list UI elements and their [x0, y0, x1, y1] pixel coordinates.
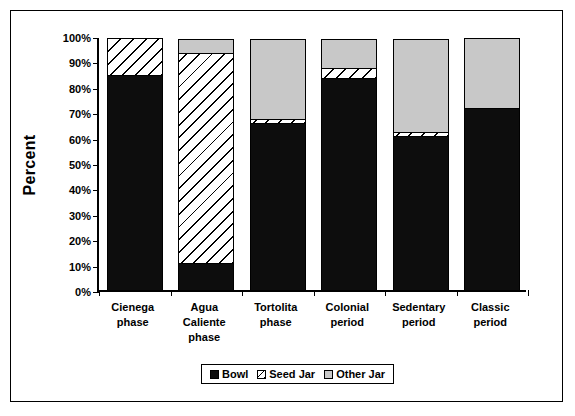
y-axis-tick-label: 20%	[47, 235, 91, 247]
legend-item-seed-jar[interactable]: Seed Jar	[257, 368, 315, 380]
bar-6[interactable]	[464, 38, 520, 290]
y-axis-tick-label: 50%	[47, 159, 91, 171]
y-axis-tick-label: 70%	[47, 108, 91, 120]
bar-segment-bowl[interactable]	[178, 263, 234, 291]
x-axis-tick	[242, 290, 243, 296]
x-axis-label-6: Classicperiod	[443, 300, 537, 330]
y-axis-tick-label: 60%	[47, 134, 91, 146]
legend-label: Other Jar	[336, 368, 385, 380]
legend-swatch-seed-icon	[257, 370, 266, 379]
y-axis-tick	[93, 241, 99, 242]
legend-item-bowl[interactable]: Bowl	[210, 368, 248, 380]
y-axis-title: Percent	[18, 90, 42, 240]
bar-5[interactable]	[393, 38, 449, 290]
y-axis-tick-label: 90%	[47, 57, 91, 69]
bar-2[interactable]	[178, 38, 234, 290]
y-axis-tick-label: 40%	[47, 184, 91, 196]
y-axis-tick	[93, 63, 99, 64]
legend-label: Bowl	[222, 368, 248, 380]
y-axis-tick	[93, 114, 99, 115]
bar-4[interactable]	[321, 38, 377, 290]
x-axis-tick	[99, 290, 100, 296]
y-axis-tick	[93, 190, 99, 191]
bar-segment-bowl[interactable]	[464, 108, 520, 291]
y-axis-tick	[93, 89, 99, 90]
y-axis-tick	[93, 216, 99, 217]
y-axis-tick-label: 30%	[47, 210, 91, 222]
bar-segment-other[interactable]	[393, 39, 449, 133]
x-axis-tick	[528, 290, 529, 296]
y-axis-tick-label: 80%	[47, 83, 91, 95]
bar-segment-other[interactable]	[321, 39, 377, 69]
y-axis-tick-label: 10%	[47, 261, 91, 273]
y-axis-tick	[93, 38, 99, 39]
bar-segment-other[interactable]	[178, 39, 234, 54]
chart-figure: Percent 100%90%80%70%60%50%40%30%20%10%0…	[0, 0, 575, 416]
bar-segment-bowl[interactable]	[393, 136, 449, 291]
bar-segment-bowl[interactable]	[107, 75, 163, 291]
bar-segment-seed[interactable]	[107, 38, 163, 76]
plot-area: 100%90%80%70%60%50%40%30%20%10%0%	[97, 38, 526, 292]
x-axis-tick	[314, 290, 315, 296]
bar-segment-other[interactable]	[250, 39, 306, 120]
y-axis-tick	[93, 267, 99, 268]
legend-swatch-other-icon	[324, 370, 333, 379]
y-axis-tick	[93, 165, 99, 166]
x-axis-label-line: period	[443, 315, 537, 330]
legend-label: Seed Jar	[269, 368, 315, 380]
x-axis-label-line: phase	[157, 330, 251, 345]
bar-segment-other[interactable]	[464, 38, 520, 109]
legend-item-other-jar[interactable]: Other Jar	[324, 368, 385, 380]
y-axis-title-text: Percent	[21, 135, 39, 196]
x-axis-tick	[457, 290, 458, 296]
y-axis-tick	[93, 140, 99, 141]
bar-segment-bowl[interactable]	[321, 78, 377, 291]
bar-1[interactable]	[107, 38, 163, 290]
chart-legend: BowlSeed JarOther Jar	[201, 364, 394, 384]
bar-3[interactable]	[250, 38, 306, 290]
y-axis-tick-label: 0%	[47, 286, 91, 298]
x-axis-label-line: Classic	[443, 300, 537, 315]
bar-segment-seed[interactable]	[178, 53, 234, 264]
x-axis-tick	[385, 290, 386, 296]
x-axis-tick	[171, 290, 172, 296]
y-axis-tick-label: 100%	[47, 32, 91, 44]
legend-swatch-bowl-icon	[210, 370, 219, 379]
bar-segment-bowl[interactable]	[250, 123, 306, 291]
